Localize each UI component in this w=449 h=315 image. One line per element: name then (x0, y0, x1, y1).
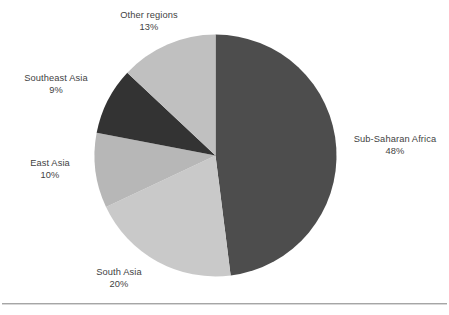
pie-label-other-regions-name: Other regions (104, 9, 194, 21)
pie-label-sub-saharan-africa-name: Sub-Saharan Africa (343, 133, 447, 145)
pie-label-sub-saharan-africa-percent: 48% (343, 145, 447, 157)
pie-slice-sub-saharan-africa (216, 34, 337, 275)
pie-label-other-regions: Other regions 13% (104, 9, 194, 34)
pie-chart-figure: Other regions 13% Southeast Asia 9% East… (0, 0, 449, 315)
pie-label-southeast-asia-percent: 9% (8, 84, 104, 96)
pie-label-east-asia: East Asia 10% (10, 157, 90, 182)
pie-label-east-asia-name: East Asia (10, 157, 90, 169)
pie-label-south-asia: South Asia 20% (74, 266, 164, 291)
pie-label-east-asia-percent: 10% (10, 169, 90, 181)
pie-label-other-regions-percent: 13% (104, 21, 194, 33)
pie-label-southeast-asia: Southeast Asia 9% (8, 72, 104, 97)
pie-label-south-asia-percent: 20% (74, 278, 164, 290)
pie-label-south-asia-name: South Asia (74, 266, 164, 278)
footer-divider-shadow (2, 304, 447, 305)
pie-label-southeast-asia-name: Southeast Asia (8, 72, 104, 84)
pie-label-sub-saharan-africa: Sub-Saharan Africa 48% (343, 133, 447, 158)
pie-slice-group (94, 34, 336, 276)
